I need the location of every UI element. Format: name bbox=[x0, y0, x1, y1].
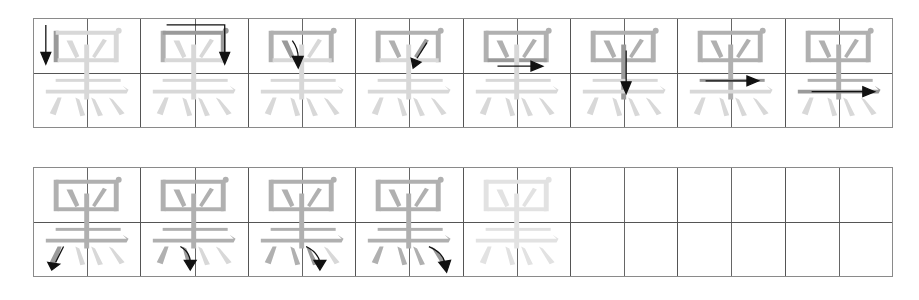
stroke-step-cell-10 bbox=[141, 168, 248, 276]
practice-row-1 bbox=[33, 18, 893, 128]
stroke-direction-arrow-icon bbox=[464, 19, 570, 127]
stroke-step-cell-4 bbox=[356, 19, 463, 127]
stroke-step-cell-2 bbox=[141, 19, 248, 127]
stroke-direction-arrow-icon bbox=[571, 19, 677, 127]
stroke-step-cell-5 bbox=[464, 19, 571, 127]
stroke-direction-arrow-icon bbox=[141, 168, 247, 276]
stroke-step-cell-1 bbox=[34, 19, 141, 127]
stroke-direction-arrow-icon bbox=[249, 168, 355, 276]
stroke-step-cell-12 bbox=[356, 168, 463, 276]
stroke-direction-arrow-icon bbox=[356, 168, 462, 276]
stroke-direction-arrow-icon bbox=[141, 19, 247, 127]
stroke-step-cell-9 bbox=[34, 168, 141, 276]
stroke-step-cell-3 bbox=[249, 19, 356, 127]
stroke-step-cell-7 bbox=[678, 19, 785, 127]
empty-practice-cell bbox=[678, 168, 785, 276]
empty-practice-cell bbox=[786, 168, 892, 276]
stroke-direction-arrow-icon bbox=[34, 168, 140, 276]
stroke-direction-arrow-icon bbox=[34, 19, 140, 127]
stroke-direction-arrow-icon bbox=[678, 19, 784, 127]
empty-practice-cell bbox=[571, 168, 678, 276]
trace-cell bbox=[464, 168, 571, 276]
stroke-direction-arrow-icon bbox=[356, 19, 462, 127]
stroke-direction-arrow-icon bbox=[786, 19, 892, 127]
stroke-step-cell-8 bbox=[786, 19, 892, 127]
stroke-direction-arrow-icon bbox=[249, 19, 355, 127]
stroke-step-cell-11 bbox=[249, 168, 356, 276]
stroke-step-cell-6 bbox=[571, 19, 678, 127]
practice-row-2 bbox=[33, 167, 893, 277]
character-glyph bbox=[464, 168, 570, 276]
